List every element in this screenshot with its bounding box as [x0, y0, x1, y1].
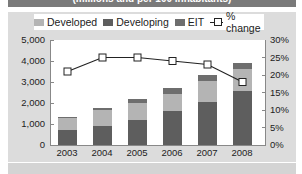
- legend-item-developed: Developed: [34, 16, 97, 28]
- developing-swatch-icon: [103, 19, 113, 26]
- line-marker-icon: [210, 18, 223, 26]
- y-right-tick: 30%: [270, 34, 289, 45]
- legend-label: EIT: [188, 16, 204, 28]
- line-marker: [134, 54, 141, 61]
- x-tick: 2006: [157, 147, 187, 158]
- y-right-tick: 0%: [270, 139, 284, 150]
- line-marker: [64, 68, 71, 75]
- legend-item-eit: EIT: [175, 16, 204, 28]
- y-left-tick: 5,000: [21, 34, 45, 45]
- legend-label: Developed: [47, 16, 97, 28]
- y-right-tick: 25%: [270, 52, 289, 63]
- pct-change-line: [51, 40, 265, 145]
- x-tick: 2005: [122, 147, 152, 158]
- legend-label: Developing: [116, 16, 169, 28]
- y-right-tick: 5%: [270, 122, 284, 133]
- chart-subtitle: (millions and per 100 inhabitants): [8, 0, 296, 4]
- eit-swatch-icon: [175, 19, 185, 26]
- x-tick: 2008: [227, 147, 257, 158]
- title-banner: (millions and per 100 inhabitants): [8, 0, 296, 7]
- legend-label: % change: [226, 10, 264, 34]
- legend-item-pct-change: % change: [210, 10, 264, 34]
- line-marker: [99, 54, 106, 61]
- bottom-band: [8, 163, 296, 174]
- plot-area: [50, 40, 266, 146]
- y-right-tick: 20%: [270, 69, 289, 80]
- y-left-tick: 1,000: [21, 118, 45, 129]
- y-left-tick: 0: [40, 139, 45, 150]
- x-tick: 2004: [87, 147, 117, 158]
- legend-item-developing: Developing: [103, 16, 169, 28]
- developed-swatch-icon: [34, 19, 44, 26]
- line-marker: [204, 61, 211, 68]
- x-tick: 2007: [192, 147, 222, 158]
- y-left-tick: 3,000: [21, 76, 45, 87]
- y-left-tick: 2,000: [21, 97, 45, 108]
- legend: Developed Developing EIT % change: [34, 14, 264, 30]
- line-marker: [239, 79, 246, 86]
- line-marker: [169, 58, 176, 65]
- y-right-tick: 15%: [270, 87, 289, 98]
- y-left-tick: 4,000: [21, 55, 45, 66]
- y-right-tick: 10%: [270, 104, 289, 115]
- x-tick: 2003: [52, 147, 82, 158]
